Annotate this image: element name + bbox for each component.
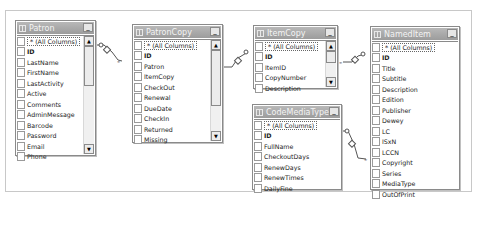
minimize-icon[interactable]: _: [325, 28, 335, 37]
relationship-nameditem-itemcopy[interactable]: ∞: [339, 52, 365, 65]
column-checkbox[interactable]: [372, 127, 380, 136]
minimize-icon[interactable]: _: [210, 27, 220, 36]
table-patroncopy[interactable]: PatronCopy _ * (All Columns) ID Patron I…: [132, 24, 223, 143]
relationship-itemcopy-patroncopy[interactable]: ∞: [219, 50, 248, 71]
column-row[interactable]: Publisher: [372, 105, 458, 116]
column-checkbox[interactable]: [254, 142, 262, 151]
column-checkbox[interactable]: [254, 121, 262, 130]
column-row[interactable]: ISxN: [372, 137, 458, 148]
column-row[interactable]: Series: [372, 168, 458, 179]
scroll-up-icon[interactable]: ▲: [84, 36, 94, 46]
column-checkbox[interactable]: [372, 169, 380, 178]
column-row[interactable]: ItemCopy: [134, 72, 221, 83]
scroll-thumb[interactable]: [211, 50, 221, 106]
scroll-down-icon[interactable]: ▼: [211, 131, 221, 141]
minimize-icon[interactable]: _: [447, 29, 457, 38]
column-row[interactable]: LC: [372, 126, 458, 137]
column-row[interactable]: CheckIn: [134, 114, 221, 125]
table-title-bar[interactable]: Patron _: [17, 22, 94, 34]
table-itemcopy[interactable]: ItemCopy _ * (All Columns) ID ItemID Cop…: [253, 25, 338, 89]
column-row[interactable]: DueDate: [134, 103, 221, 114]
column-row[interactable]: ItemID: [255, 62, 336, 73]
column-checkbox[interactable]: [372, 85, 380, 94]
column-checkbox[interactable]: [255, 42, 263, 51]
column-checkbox[interactable]: [254, 184, 262, 193]
column-row[interactable]: Returned: [134, 124, 221, 135]
scroll-thumb[interactable]: [84, 46, 94, 86]
column-row[interactable]: CheckoutDays: [254, 152, 340, 163]
column-row[interactable]: ID: [255, 52, 336, 63]
column-row[interactable]: * (All Columns): [255, 41, 336, 52]
column-checkbox[interactable]: [17, 131, 25, 140]
column-checkbox[interactable]: [134, 72, 142, 81]
relationship-codemediatype-nameditem[interactable]: ∞: [342, 129, 367, 162]
column-checkbox[interactable]: [17, 110, 25, 119]
column-checkbox[interactable]: [17, 68, 25, 77]
relationship-patron-patroncopy[interactable]: ∞: [96, 43, 122, 64]
scroll-up-icon[interactable]: ▲: [211, 40, 221, 50]
table-title-bar[interactable]: CodeMediaType _: [254, 106, 340, 118]
column-checkbox[interactable]: [17, 100, 25, 109]
column-checkbox[interactable]: [134, 83, 142, 92]
column-checkbox[interactable]: [372, 116, 380, 125]
column-checkbox[interactable]: [254, 163, 262, 172]
column-checkbox[interactable]: [255, 73, 263, 82]
minimize-icon[interactable]: _: [83, 23, 93, 32]
column-row[interactable]: * (All Columns): [254, 120, 340, 131]
scroll-down-icon[interactable]: ▼: [84, 144, 94, 154]
column-row[interactable]: Description: [372, 84, 458, 95]
column-row[interactable]: FullName: [254, 141, 340, 152]
column-row[interactable]: Patron: [134, 61, 221, 72]
column-checkbox[interactable]: [372, 64, 380, 73]
table-codemediatype[interactable]: CodeMediaType _ * (All Columns) ID FullN…: [252, 104, 342, 190]
column-checkbox[interactable]: [134, 114, 142, 123]
table-patron[interactable]: Patron _ * (All Columns) ID LastName Fir…: [15, 20, 96, 156]
column-checkbox[interactable]: [372, 53, 380, 62]
column-checkbox[interactable]: [134, 41, 142, 50]
column-checkbox[interactable]: [134, 51, 142, 60]
column-checkbox[interactable]: [17, 121, 25, 130]
column-checkbox[interactable]: [134, 135, 142, 144]
column-checkbox[interactable]: [17, 58, 25, 67]
column-checkbox[interactable]: [17, 152, 25, 161]
column-checkbox[interactable]: [254, 173, 262, 182]
column-row[interactable]: Subtitle: [372, 74, 458, 85]
column-row[interactable]: MediaType: [372, 179, 458, 190]
table-title-bar[interactable]: ItemCopy _: [255, 27, 336, 39]
table-title-bar[interactable]: PatronCopy _: [134, 26, 221, 38]
column-checkbox[interactable]: [372, 74, 380, 83]
table-title-bar[interactable]: NamedItem _: [372, 28, 458, 40]
column-checkbox[interactable]: [134, 104, 142, 113]
column-checkbox[interactable]: [372, 190, 380, 199]
column-checkbox[interactable]: [255, 52, 263, 61]
column-row[interactable]: Renewal: [134, 93, 221, 104]
column-row[interactable]: * (All Columns): [134, 40, 221, 51]
column-row[interactable]: Description: [255, 83, 336, 94]
column-checkbox[interactable]: [254, 152, 262, 161]
column-row[interactable]: Title: [372, 63, 458, 74]
column-row[interactable]: Dewey: [372, 116, 458, 127]
column-checkbox[interactable]: [17, 89, 25, 98]
column-checkbox[interactable]: [372, 158, 380, 167]
column-row[interactable]: CheckOut: [134, 82, 221, 93]
column-row[interactable]: RenewDays: [254, 162, 340, 173]
column-row[interactable]: Copyright: [372, 158, 458, 169]
column-row[interactable]: ID: [372, 53, 458, 64]
column-row[interactable]: CopyNumber: [255, 73, 336, 84]
column-row[interactable]: ID: [134, 51, 221, 62]
column-checkbox[interactable]: [372, 148, 380, 157]
column-row[interactable]: Edition: [372, 95, 458, 106]
column-row[interactable]: ID: [254, 131, 340, 142]
column-row[interactable]: OutOfPrint: [372, 189, 458, 200]
column-checkbox[interactable]: [255, 63, 263, 72]
column-checkbox[interactable]: [17, 37, 25, 46]
vertical-scrollbar[interactable]: ▲ ▼: [210, 40, 221, 141]
column-row[interactable]: LCCN: [372, 147, 458, 158]
column-checkbox[interactable]: [372, 137, 380, 146]
column-checkbox[interactable]: [372, 43, 380, 52]
column-checkbox[interactable]: [372, 106, 380, 115]
table-nameditem[interactable]: NamedItem _ * (All Columns) ID Title Sub…: [370, 26, 460, 190]
column-checkbox[interactable]: [372, 179, 380, 188]
column-row[interactable]: * (All Columns): [372, 42, 458, 53]
column-row[interactable]: Missing: [134, 135, 221, 146]
